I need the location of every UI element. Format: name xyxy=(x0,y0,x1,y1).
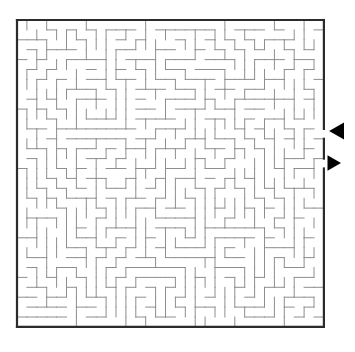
page-background xyxy=(0,0,355,352)
maze-page xyxy=(0,0,355,352)
maze-figure xyxy=(0,0,355,352)
